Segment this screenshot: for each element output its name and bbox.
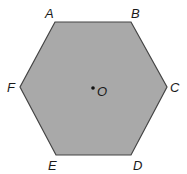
vertex-label-f: F [7, 80, 16, 95]
vertex-label-c: C [170, 80, 180, 95]
hexagon-diagram: A B C D E F O [0, 0, 187, 174]
center-point [91, 86, 95, 90]
vertex-label-a: A [44, 6, 54, 21]
center-label-o: O [97, 84, 107, 99]
vertex-label-b: B [131, 6, 140, 21]
vertex-label-e: E [48, 158, 57, 173]
vertex-label-d: D [133, 158, 142, 173]
